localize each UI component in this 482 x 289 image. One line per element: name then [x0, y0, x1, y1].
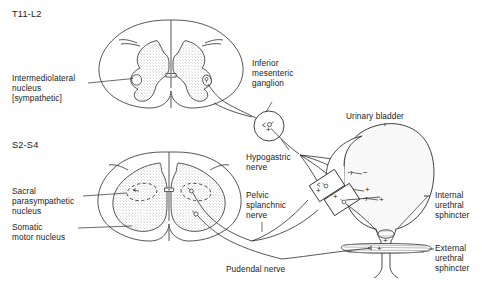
diagram-canvas	[0, 0, 482, 289]
label-level-sacral: S2-S4	[12, 140, 38, 150]
thoracic-cord-section	[99, 20, 258, 119]
sign-external-sphincter-plus: +	[377, 244, 382, 254]
sign-pelvic-ganglion-plus-2: +	[316, 186, 321, 196]
sign-ganglion-plus: +	[266, 125, 271, 135]
sign-pelvic-ganglion-plus-1: +	[333, 192, 338, 202]
preganglionic-parasympathetic-soma	[190, 189, 194, 193]
ventral-root-thoracic	[214, 103, 252, 117]
label-urinary-bladder: Urinary bladder	[346, 111, 404, 121]
label-sacral-parasympathetic-nucleus: Sacral parasympathetic nucleus	[12, 186, 74, 217]
intermediolateral-nucleus-marker-left	[132, 75, 142, 85]
urethra-right-wall	[390, 252, 398, 278]
label-pelvic-splanchnic-nerve: Pelvic splanchnic nerve	[246, 190, 286, 221]
preganglionic-sympathetic-soma	[205, 78, 208, 81]
central-canal-sacral	[168, 189, 170, 191]
inferior-mesenteric-ganglion	[254, 111, 299, 154]
label-inferior-mesenteric-ganglion: Inferior mesenteric ganglion	[252, 58, 293, 89]
bladder-dome	[344, 124, 434, 230]
urethra-left-wall	[374, 252, 382, 278]
label-hypogastric-nerve: Hypogastric nerve	[246, 152, 291, 172]
sign-internal-sphincter-plus: +	[383, 236, 388, 246]
label-intermediolateral-nucleus: Intermediolateral nucleus [sympathetic]	[12, 73, 75, 104]
pelvic-ganglion-soma-1	[324, 184, 328, 188]
label-somatic-motor-nucleus: Somatic motor nucleus	[12, 222, 65, 242]
urinary-bladder-innervation-figure: T11-L2 Intermediolateral nucleus [sympat…	[0, 0, 482, 289]
sign-bladder-wall-minus: −	[363, 168, 368, 178]
label-external-urethral-sphincter: External urethral sphincter	[435, 243, 469, 274]
leader-inferior-mesenteric-ganglion	[266, 102, 272, 112]
sign-bladder-wall-plus-2: +	[379, 195, 384, 205]
pelvic-ganglion-soma-2	[342, 200, 346, 204]
pudendal-nerve-to-sphincter	[282, 248, 372, 259]
label-internal-urethral-sphincter: Internal urethral sphincter	[435, 190, 469, 221]
label-pudendal-nerve: Pudendal nerve	[226, 264, 285, 274]
central-canal-thoracic	[170, 75, 172, 77]
sign-bladder-wall-plus-1: +	[365, 185, 370, 195]
label-level-thoracic: T11-L2	[12, 9, 42, 19]
